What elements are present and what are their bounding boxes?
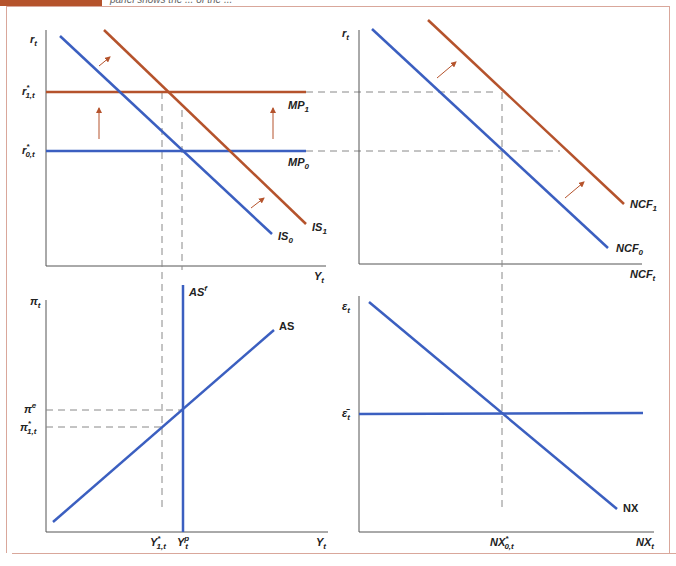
axis-label-pit: πt <box>30 295 41 310</box>
label-asf: ASf <box>188 284 208 298</box>
tick-ypt: Ypt <box>177 534 189 551</box>
label-is1: IS1 <box>312 221 327 236</box>
ncf1-curve <box>428 20 624 204</box>
label-ncf1: NCF1 <box>630 198 658 213</box>
axis-label-ncft: NCFt <box>630 268 656 283</box>
shift-arrow-icon <box>251 198 264 208</box>
panel-as: πt πe π*1,t ASf AS Y*1,t Ypt Yt <box>20 284 328 551</box>
axis-label-yt: Yt <box>314 270 324 285</box>
tick-r1t: r*1,t <box>22 83 35 100</box>
tick-nx0t: NX*0,t <box>490 534 514 551</box>
label-mp1: MP1 <box>288 99 310 114</box>
label-as: AS <box>279 320 294 332</box>
tick-y1t: Y*1,t <box>150 534 166 551</box>
tick-pie: πe <box>24 401 37 415</box>
label-mp0: MP0 <box>288 156 310 171</box>
axis-label-nxt: NXt <box>636 536 654 551</box>
label-nx: NX <box>623 502 639 514</box>
shift-arrow-icon <box>99 57 110 66</box>
tick-pi1t: π*1,t <box>20 419 37 436</box>
shift-arrow-icon <box>437 62 456 78</box>
label-is0: IS0 <box>278 230 293 245</box>
tick-epsbar: ε̄t <box>342 407 350 422</box>
label-ncf0: NCF0 <box>616 242 644 257</box>
axis-label-rt: rt <box>30 33 37 48</box>
axis-label-epst: εt <box>342 300 350 315</box>
axis-label-yt: Yt <box>316 536 326 551</box>
tick-r0t: r*0,t <box>22 142 35 159</box>
shift-arrow-icon <box>565 182 584 198</box>
panel-nx: εt ε̄t NX NX*0,t NXt <box>342 296 654 551</box>
nx-curve <box>369 302 617 509</box>
is0-curve <box>60 36 272 234</box>
axis-label-rt: rt <box>342 27 349 42</box>
ncf0-curve <box>372 29 608 248</box>
as-curve <box>53 330 274 522</box>
is1-curve <box>104 30 306 224</box>
panel-ncf: rt NCF1 NCF0 NCFt <box>342 20 658 510</box>
figure-canvas: rt r*1,t r*0,t MP1 MP0 IS0 IS1 Yt rt NCF… <box>0 0 676 566</box>
panel-is-mp: rt r*1,t r*0,t MP1 MP0 IS0 IS1 Yt <box>22 30 560 510</box>
